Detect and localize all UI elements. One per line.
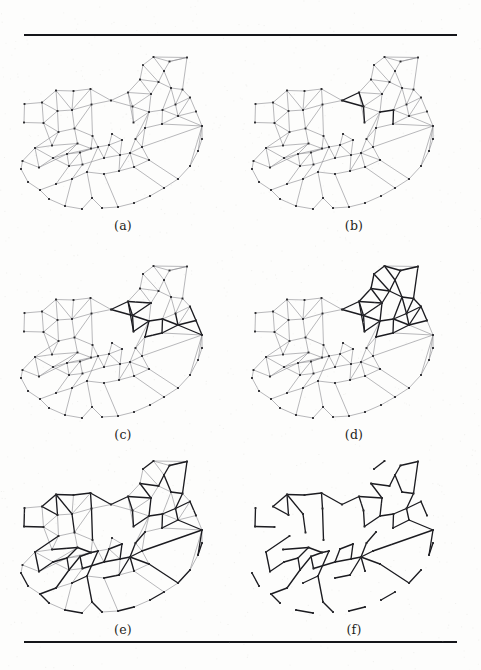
graph-edge [72,105,92,111]
graph-edge [109,354,120,364]
graph-edge [42,507,44,528]
panel-f-bold-edges [252,461,433,613]
graph-edge [340,343,343,354]
graph-node [64,609,66,611]
graph-edge [130,362,134,376]
graph-edge [393,520,409,528]
graph-edge [259,391,271,399]
graph-edge [306,129,324,137]
graph-edge [40,393,56,399]
graph-edge [72,495,74,514]
graph-node [334,366,336,368]
graph-node [24,312,26,314]
graph-edge [255,527,275,528]
graph-node [97,146,99,148]
graph-edge [159,280,165,291]
graph-edge [402,88,414,90]
graph-edge [287,495,303,515]
graph-edge [395,475,402,492]
graph-edge [120,362,130,364]
graph-edge [287,179,303,184]
graph-edge [82,198,92,209]
graph-node [150,302,152,304]
graph-edge [87,172,92,198]
graph-node [77,547,79,549]
graph-edge [287,91,289,112]
graph-node [66,557,68,559]
graph-edge [93,136,99,147]
graph-node [406,508,408,510]
panel-b-plot [243,48,465,223]
graph-edge [104,575,119,578]
graph-node [142,273,144,275]
graph-node [389,485,391,487]
graph-node [148,563,150,565]
graph-node [39,189,41,191]
graph-edge [311,362,314,374]
graph-node [22,564,24,566]
graph-edge [371,80,382,95]
graph-edge [75,314,92,338]
graph-node [195,111,197,113]
graph-node [283,366,285,368]
graph-edge [318,147,329,172]
graph-node [189,165,191,167]
graph-node [20,572,22,574]
graph-node [265,551,267,553]
graph-node [366,542,368,544]
graph-edge [401,58,419,62]
graph-edge [266,146,283,149]
graph-edge [322,89,343,101]
graph-node [79,556,81,558]
graph-edge [283,548,309,550]
graph-edge [72,91,74,110]
graph-edge [164,466,170,476]
graph-edge [329,356,335,367]
panel-f-caption: (f) [243,622,465,637]
graph-edge [154,266,188,267]
graph-node [68,569,70,571]
graph-node [71,318,73,320]
graph-node [392,123,394,125]
graph-edge [266,357,284,367]
graph-edge [82,602,92,613]
graph-node [380,195,382,197]
graph-edge [324,345,330,356]
graph-edge [303,319,306,338]
graph-node [321,88,323,90]
graph-node [384,265,386,267]
graph-edge [21,169,28,182]
graph-edge [176,314,179,326]
graph-edge [270,158,284,168]
graph-node [323,135,325,137]
graph-node [304,90,306,92]
graph-edge [342,101,364,107]
graph-node [38,167,40,169]
graph-node [295,414,297,416]
graph-node [121,139,123,141]
graph-node [195,320,197,322]
graph-edge [92,198,102,208]
graph-edge [296,610,313,613]
graph-node [149,195,151,197]
graph-node [51,549,53,551]
graph-edge [361,362,380,369]
graph-edge [287,300,303,320]
graph-edge [140,289,159,292]
graph-node [417,266,419,268]
graph-node [384,460,386,462]
graph-edge [104,171,119,174]
graph-node [299,374,301,376]
graph-node [420,501,422,503]
graph-edge [395,388,409,397]
graph-edge [287,166,300,184]
graph-node [127,301,129,303]
graph-edge [35,146,52,149]
graph-node [82,373,84,375]
graph-edge [162,124,202,126]
graph-edge [361,362,365,376]
graph-edge [151,486,159,498]
graph-node [270,189,272,191]
graph-node [308,547,310,549]
graph-edge [56,495,74,496]
